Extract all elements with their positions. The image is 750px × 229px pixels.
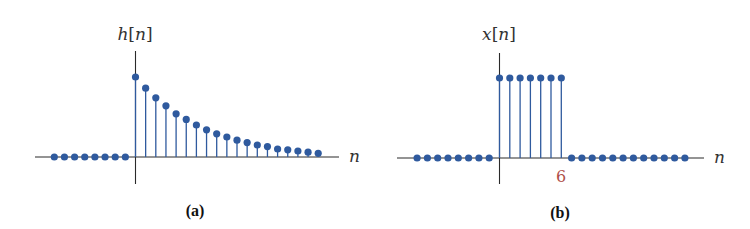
stem-dot (568, 154, 575, 161)
stem-dot (162, 102, 169, 109)
stem-dot (71, 153, 78, 160)
stem-dot (112, 153, 119, 160)
stem-dot (223, 133, 230, 140)
stem-dot (244, 139, 251, 146)
y-axis-label: x[n] (482, 24, 516, 44)
stem-dot (475, 154, 482, 161)
stem-dot (434, 154, 441, 161)
stem-dot (465, 154, 472, 161)
stem-dot (661, 154, 668, 161)
stem-dot (630, 154, 637, 161)
stem-dot (506, 74, 513, 81)
stem-dot (640, 154, 647, 161)
stem-dot (424, 154, 431, 161)
stem-dot (304, 149, 311, 156)
stem-dot (578, 154, 585, 161)
stem-dot (589, 154, 596, 161)
stem-dot (444, 154, 451, 161)
x-axis-label: n (349, 146, 360, 166)
panel-caption: (a) (186, 202, 205, 220)
stem-dot (315, 150, 322, 157)
stem-dot (203, 126, 210, 133)
stem-dot (681, 154, 688, 161)
stem-series (414, 74, 689, 161)
stem-dot (414, 154, 421, 161)
stem-dot (558, 74, 565, 81)
stem-dot (620, 154, 627, 161)
stem-dot (294, 147, 301, 154)
x-axis-label: n (714, 147, 725, 167)
stem-dot (671, 154, 678, 161)
stem-dot (264, 143, 271, 150)
tick-label-6: 6 (556, 167, 566, 186)
stem-dot (517, 74, 524, 81)
stem-dot (527, 74, 534, 81)
stem-dot (132, 73, 139, 80)
stem-dot (51, 153, 58, 160)
stem-dot (547, 74, 554, 81)
stem-dot (455, 154, 462, 161)
stem-dot (173, 110, 180, 117)
stem-dot (486, 154, 493, 161)
stem-dot (152, 94, 159, 101)
stem-dot (142, 85, 149, 92)
stem-dot (81, 153, 88, 160)
stem-dot (61, 153, 68, 160)
stem-dot (213, 130, 220, 137)
stem-dot (599, 154, 606, 161)
y-axis-label: h[n] (117, 24, 152, 44)
stem-dot (537, 74, 544, 81)
figure: h[n] n (a) x[n] n 6 (b) (0, 0, 750, 229)
panel-caption: (b) (550, 204, 570, 222)
stem-dot (274, 145, 281, 152)
stem-dot (233, 137, 240, 144)
stem-dot (122, 153, 129, 160)
stem-dot (284, 146, 291, 153)
stem-dot (101, 153, 108, 160)
stem-dot (650, 154, 657, 161)
stem-dot (254, 141, 261, 148)
stem-dot (183, 116, 190, 123)
panel-a: h[n] n (a) (35, 24, 360, 220)
stem-dot (496, 74, 503, 81)
stem-dot (193, 121, 200, 128)
stem-dot (91, 153, 98, 160)
stem-dot (609, 154, 616, 161)
stem-series (51, 73, 322, 160)
panel-b: x[n] n 6 (b) (397, 24, 725, 222)
